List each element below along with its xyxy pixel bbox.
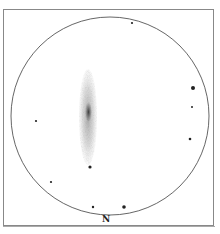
galaxy-smudge <box>79 69 97 165</box>
north-label: N <box>99 214 113 224</box>
star <box>50 181 52 183</box>
star <box>92 206 94 208</box>
star <box>131 22 133 24</box>
field-of-view-circle <box>11 17 209 215</box>
star <box>191 86 195 90</box>
star <box>191 106 193 108</box>
star <box>88 165 91 168</box>
star <box>189 138 192 141</box>
star-field <box>35 22 195 209</box>
eyepiece-sketch <box>0 0 220 234</box>
star <box>35 120 37 122</box>
star <box>122 205 126 209</box>
